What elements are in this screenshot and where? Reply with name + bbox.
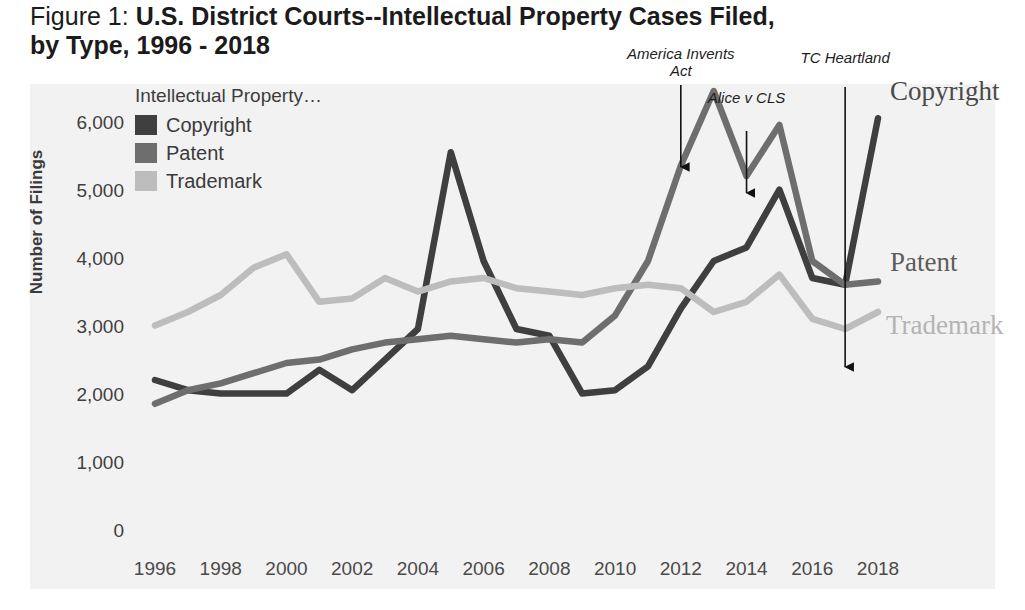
legend-item-copyright[interactable]: Copyright xyxy=(135,111,322,139)
x-axis-tick: 2006 xyxy=(449,558,519,580)
y-axis-tick: 0 xyxy=(38,520,124,542)
x-axis-tick: 2000 xyxy=(251,558,321,580)
x-axis-tick: 2004 xyxy=(383,558,453,580)
y-axis-title: Number of Filings xyxy=(27,132,47,312)
annotation-label: Alice v CLS xyxy=(667,89,827,106)
legend-item-label: Copyright xyxy=(166,114,252,137)
legend-items: CopyrightPatentTrademark xyxy=(135,111,322,195)
x-axis-tick: 2002 xyxy=(317,558,387,580)
x-axis-tick: 2016 xyxy=(777,558,847,580)
series-end-label-trademark: Trademark xyxy=(886,310,1003,341)
legend-swatch-icon xyxy=(135,171,157,191)
y-axis-tick: 3,000 xyxy=(38,316,124,338)
y-axis-tick: 5,000 xyxy=(38,180,124,202)
x-axis-tick: 2018 xyxy=(843,558,913,580)
title-text-1: U.S. District Courts--Intellectual Prope… xyxy=(136,2,775,30)
title-line-1: Figure 1: U.S. District Courts--Intellec… xyxy=(30,2,730,31)
legend-swatch-icon xyxy=(135,115,157,135)
legend-item-label: Patent xyxy=(166,142,224,165)
x-axis-tick: 1998 xyxy=(186,558,256,580)
figure-label: Figure 1: xyxy=(30,2,129,30)
x-axis-tick: 2008 xyxy=(514,558,584,580)
y-axis-tick: 4,000 xyxy=(38,248,124,270)
series-line-trademark xyxy=(155,254,878,329)
legend-item-label: Trademark xyxy=(166,170,262,193)
y-axis-tick: 6,000 xyxy=(38,112,124,134)
annotation-label: TC Heartland xyxy=(765,49,925,66)
x-axis-tick: 2010 xyxy=(580,558,650,580)
plot-area: 01,0002,0003,0004,0005,0006,000199619982… xyxy=(30,84,995,589)
annotation-label: America Invents Act xyxy=(601,45,761,80)
legend-swatch-icon xyxy=(135,143,157,163)
series-end-label-patent: Patent xyxy=(890,247,958,278)
legend-item-patent[interactable]: Patent xyxy=(135,139,322,167)
x-axis-tick: 2014 xyxy=(712,558,782,580)
chart-legend: Intellectual Property… CopyrightPatentTr… xyxy=(135,85,322,195)
legend-item-trademark[interactable]: Trademark xyxy=(135,167,322,195)
figure-container: Figure 1: U.S. District Courts--Intellec… xyxy=(0,0,1025,610)
legend-title: Intellectual Property… xyxy=(135,85,322,107)
x-axis-tick: 1996 xyxy=(120,558,190,580)
series-end-label-copyright: Copyright xyxy=(890,76,1000,107)
x-axis-tick: 2012 xyxy=(646,558,716,580)
y-axis-tick: 2,000 xyxy=(38,384,124,406)
y-axis-tick: 1,000 xyxy=(38,452,124,474)
